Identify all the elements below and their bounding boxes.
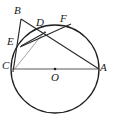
vertex-label-A: A	[100, 62, 107, 73]
vertex-label-F: F	[60, 13, 67, 24]
vertex-label-B: B	[14, 5, 21, 16]
vertex-label-E: E	[7, 36, 14, 47]
segment-ED	[21, 32, 46, 46]
vertex-label-O: O	[51, 72, 59, 83]
segment-tangent-BC	[13, 19, 21, 72]
geometry-figure: B D F E C O A	[0, 0, 115, 120]
vertex-label-C: C	[2, 60, 9, 71]
segment-BA	[21, 19, 99, 69]
center-dot-O	[54, 68, 57, 71]
segment-to-F	[20, 24, 71, 47]
vertex-label-D: D	[36, 17, 44, 28]
geometry-canvas	[0, 0, 115, 120]
